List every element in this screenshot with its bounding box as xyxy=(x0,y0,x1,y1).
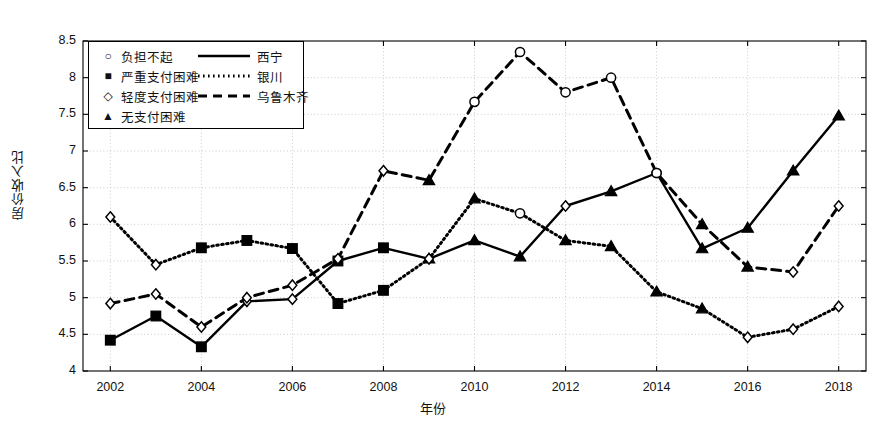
legend-line-row: 西宁 xyxy=(197,46,283,66)
legend-line-row: 乌鲁木齐 xyxy=(197,86,309,106)
x-tick-label: 2018 xyxy=(809,380,869,394)
chart-legend: ○负担不起■严重支付困难◇轻度支付困难▲无支付困难西宁银川乌鲁木齐 xyxy=(88,41,304,129)
x-tick-label: 2014 xyxy=(627,380,687,394)
y-tick-label: 6 xyxy=(30,216,76,230)
data-point-square-marker xyxy=(106,335,116,345)
chart-figure: 房价收入比 年份 44.555.566.577.588.5 2002200420… xyxy=(0,0,893,429)
data-point-circle-marker xyxy=(652,168,661,177)
data-point-square-marker xyxy=(197,243,207,253)
y-tick-label: 8 xyxy=(30,70,76,84)
x-tick-label: 2010 xyxy=(445,380,505,394)
y-tick-label: 4.5 xyxy=(30,326,76,340)
data-point-square-marker xyxy=(379,243,389,253)
legend-marker-row: ◇轻度支付困难 xyxy=(95,86,199,106)
legend-marker-label: 无支付困难 xyxy=(121,107,186,126)
y-tick-label: 5 xyxy=(30,290,76,304)
data-point-square-marker xyxy=(242,236,252,246)
data-point-triangle-marker xyxy=(833,110,844,120)
data-point-square-marker xyxy=(151,311,161,321)
legend-line-row: 银川 xyxy=(197,66,283,86)
data-point-circle-marker xyxy=(470,97,479,106)
legend-marker-label: 轻度支付困难 xyxy=(121,87,199,106)
data-point-triangle-marker xyxy=(469,235,480,245)
data-point-square-marker xyxy=(379,286,389,296)
y-tick-label: 6.5 xyxy=(30,180,76,194)
legend-marker-row: ○负担不起 xyxy=(95,46,173,66)
y-tick-label: 7 xyxy=(30,143,76,157)
legend-line-label: 乌鲁木齐 xyxy=(257,87,309,106)
square-marker-icon: ■ xyxy=(95,70,121,82)
y-tick-label: 8.5 xyxy=(30,33,76,47)
data-point-square-marker xyxy=(197,342,207,352)
x-tick-label: 2004 xyxy=(171,380,231,394)
data-point-circle-marker xyxy=(515,209,524,218)
data-point-diamond-marker xyxy=(834,301,843,311)
dashed-line-icon xyxy=(197,90,251,102)
x-tick-label: 2002 xyxy=(80,380,140,394)
data-point-triangle-marker xyxy=(696,219,707,229)
legend-line-label: 银川 xyxy=(257,67,283,86)
legend-marker-row: ■严重支付困难 xyxy=(95,66,199,86)
x-tick-label: 2016 xyxy=(718,380,778,394)
data-point-circle-marker xyxy=(561,88,570,97)
dotted-line-icon xyxy=(197,70,251,82)
diamond-marker-icon: ◇ xyxy=(95,90,121,102)
data-point-square-marker xyxy=(333,299,343,309)
data-point-diamond-marker xyxy=(106,298,115,308)
data-point-circle-marker xyxy=(606,73,615,82)
solid-line-icon xyxy=(197,50,251,62)
legend-line-label: 西宁 xyxy=(257,47,283,66)
data-point-circle-marker xyxy=(515,47,524,56)
legend-marker-label: 严重支付困难 xyxy=(121,67,199,86)
legend-marker-label: 负担不起 xyxy=(121,47,173,66)
legend-marker-row: ▲无支付困难 xyxy=(95,106,186,126)
data-point-diamond-marker xyxy=(288,280,297,290)
x-tick-label: 2012 xyxy=(536,380,596,394)
circle-marker-icon: ○ xyxy=(95,50,121,62)
data-point-diamond-marker xyxy=(789,267,798,277)
data-point-square-marker xyxy=(288,244,298,254)
data-point-triangle-marker xyxy=(469,193,480,203)
x-axis-title: 年份 xyxy=(420,398,446,417)
y-axis-title: 房价收入比 xyxy=(8,150,28,220)
y-tick-label: 4 xyxy=(30,363,76,377)
x-tick-label: 2008 xyxy=(353,380,413,394)
x-tick-label: 2006 xyxy=(262,380,322,394)
y-tick-label: 7.5 xyxy=(30,106,76,120)
triangle-marker-icon: ▲ xyxy=(95,110,121,122)
y-tick-label: 5.5 xyxy=(30,253,76,267)
series-1 xyxy=(106,110,845,352)
data-point-diamond-marker xyxy=(789,324,798,334)
